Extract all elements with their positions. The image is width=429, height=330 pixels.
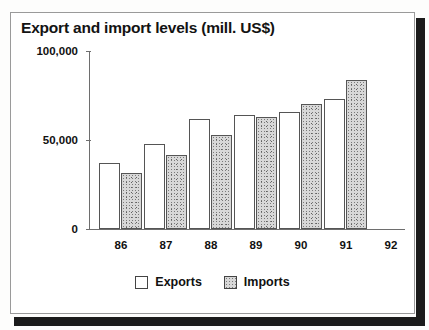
- stippled-square-icon: [224, 276, 237, 289]
- x-axis-label-89: 89: [234, 239, 278, 251]
- y-axis-label-0: 0: [72, 223, 78, 235]
- y-tick-100000: 100,000: [86, 51, 91, 52]
- scanned-page: Export and import levels (mill. US$) 100…: [0, 0, 429, 330]
- x-axis-label-90: 90: [279, 239, 323, 251]
- bar-imports-91: [346, 80, 367, 229]
- bar-exports-91: [324, 99, 345, 229]
- x-axis-line: [89, 229, 405, 230]
- y-axis-label-100000: 100,000: [36, 45, 78, 57]
- legend-item-exports: Exports: [135, 275, 202, 289]
- bar-imports-86: [121, 173, 142, 229]
- y-tick-0: 0: [86, 229, 91, 230]
- x-axis-label-87: 87: [144, 239, 188, 251]
- legend-label-exports: Exports: [155, 275, 202, 289]
- bar-exports-90: [279, 112, 300, 229]
- bar-imports-89: [256, 117, 277, 229]
- chart-card: Export and import levels (mill. US$) 100…: [10, 12, 415, 314]
- empty-square-icon: [135, 276, 148, 289]
- x-axis-label-92: 92: [369, 239, 413, 251]
- bar-exports-87: [144, 144, 165, 229]
- chart-title: Export and import levels (mill. US$): [21, 19, 275, 37]
- legend-item-imports: Imports: [224, 275, 290, 289]
- page-shadow-bottom: [14, 317, 425, 326]
- legend-label-imports: Imports: [244, 275, 290, 289]
- plot-area: 100,000 50,000 0 86 87 88: [89, 51, 407, 229]
- bar-imports-87: [166, 155, 187, 229]
- bar-exports-88: [189, 119, 210, 229]
- bar-imports-88: [211, 135, 232, 229]
- bar-imports-90: [301, 104, 322, 229]
- y-tick-50000: 50,000: [86, 140, 91, 141]
- x-axis-label-86: 86: [99, 239, 143, 251]
- page-shadow-right: [416, 18, 425, 326]
- x-axis-label-88: 88: [189, 239, 233, 251]
- y-axis-label-50000: 50,000: [43, 134, 78, 146]
- bar-exports-86: [99, 163, 120, 229]
- bar-exports-89: [234, 115, 255, 229]
- x-axis-label-91: 91: [324, 239, 368, 251]
- chart-legend: Exports Imports: [11, 275, 414, 289]
